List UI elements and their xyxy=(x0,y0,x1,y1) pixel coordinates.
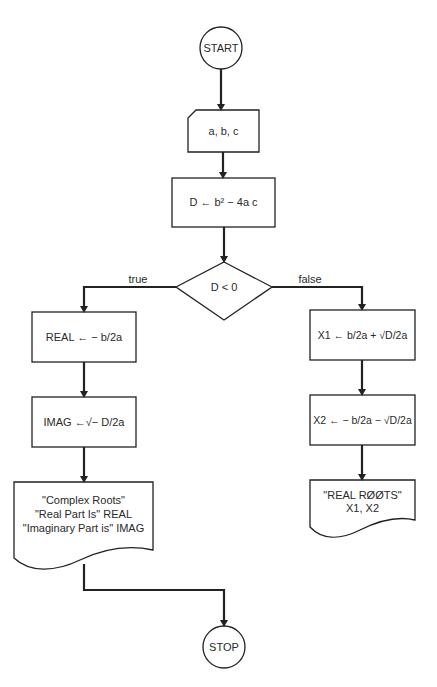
real-label: REAL ← − b/2a xyxy=(32,331,136,343)
real-output-text: "REAL RØØTS" X1, X2 xyxy=(310,489,415,515)
real-output-line: X1, X2 xyxy=(310,502,415,515)
real-output-line: "REAL RØØTS" xyxy=(310,489,415,502)
imag-label: IMAG ←√− D/2a xyxy=(32,416,136,428)
flowchart-canvas xyxy=(0,0,437,687)
complex-output-line: "Complex Roots" xyxy=(14,493,153,507)
compute-d-label: D ← b² − 4a c xyxy=(172,196,275,208)
false-branch-label: false xyxy=(290,273,330,285)
input-label: a, b, c xyxy=(188,125,259,137)
decision-label: D < 0 xyxy=(190,281,258,293)
complex-output-line: "Real Part Is" REAL xyxy=(14,507,153,521)
true-branch-label: true xyxy=(118,273,158,285)
x2-label: X2 ← − b/2a − √D/2a xyxy=(310,414,415,426)
complex-output-line: "Imaginary Part is" IMAG xyxy=(14,521,153,535)
complex-output-text: "Complex Roots" "Real Part Is" REAL "Ima… xyxy=(14,493,153,535)
start-label: START xyxy=(200,42,242,54)
x1-label: X1 ← b/2a + √D/2a xyxy=(310,329,415,341)
stop-label: STOP xyxy=(203,641,245,653)
